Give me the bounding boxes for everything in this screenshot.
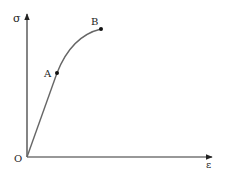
elastic-segment-oa	[27, 73, 57, 157]
origin-label: O	[14, 153, 22, 164]
plastic-curve-ab	[57, 29, 101, 73]
point-b-label: B	[91, 16, 98, 27]
point-a-marker	[55, 71, 59, 75]
stress-strain-diagram: σ ε O A B	[0, 0, 226, 186]
y-axis-label-sigma: σ	[13, 12, 21, 25]
x-axis-label-epsilon: ε	[206, 159, 211, 170]
point-a-label: A	[43, 68, 52, 79]
point-b-marker	[99, 27, 103, 31]
